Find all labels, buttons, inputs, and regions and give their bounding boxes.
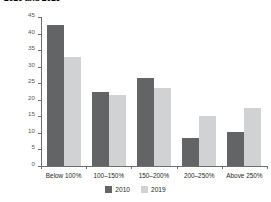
bar-2010-5 <box>227 132 244 166</box>
y-axis-tick: 5 <box>0 149 41 150</box>
y-axis-tick-mark <box>38 116 41 117</box>
legend-item-2010[interactable]: 2010 <box>105 186 130 193</box>
y-axis-tick-label: 5 <box>32 144 35 150</box>
y-axis-tick: 10 <box>0 133 41 134</box>
legend-item-2019[interactable]: 2019 <box>141 186 166 193</box>
y-axis-tick-label: 0 <box>32 161 35 167</box>
x-axis-category-label: Above 250% <box>222 172 267 179</box>
x-axis-category-label: Below 100% <box>41 172 86 179</box>
bar-2010-2 <box>92 92 109 166</box>
x-axis-tick-mark <box>131 166 132 169</box>
y-axis-tick-mark <box>38 34 41 35</box>
y-axis-tick-label: 25 <box>28 78 35 84</box>
bar-2010-1 <box>47 25 64 166</box>
y-axis-tick: 25 <box>0 83 41 84</box>
x-axis-category-label: 200–250% <box>177 172 222 179</box>
x-axis-tick-mark <box>222 166 223 169</box>
legend-swatch-icon <box>141 186 148 193</box>
x-axis-tick-mark <box>41 166 42 169</box>
y-axis-tick: 0 <box>0 166 41 167</box>
bar-2010-4 <box>182 138 199 166</box>
x-axis-tick-mark <box>177 166 178 169</box>
y-axis-tick-label: 45 <box>28 12 35 18</box>
chart-title: 2010 and 2019 <box>4 0 254 3</box>
y-axis-tick-label: 20 <box>28 95 35 101</box>
y-axis-tick: 20 <box>0 100 41 101</box>
y-axis-tick: 35 <box>0 50 41 51</box>
bar-2019-3 <box>154 88 171 166</box>
y-axis-tick-label: 10 <box>28 128 35 134</box>
y-axis-tick-mark <box>38 133 41 134</box>
bar-chart-figure: 2010 and 2019 051015202530354045 Percent… <box>0 0 271 202</box>
y-axis-tick-label: 30 <box>28 62 35 68</box>
bar-2019-5 <box>244 108 261 166</box>
x-axis-category-label: 100–150% <box>86 172 131 179</box>
legend-label: 2010 <box>115 186 130 193</box>
y-axis-tick-mark <box>38 100 41 101</box>
bar-2019-2 <box>109 95 126 166</box>
y-axis-tick: 15 <box>0 116 41 117</box>
y-axis-tick-mark <box>38 149 41 150</box>
x-axis-category-label: 150–200% <box>131 172 176 179</box>
bar-2019-4 <box>199 116 216 166</box>
y-axis-tick-label: 35 <box>28 45 35 51</box>
x-axis-tick-mark <box>267 166 268 169</box>
y-axis-tick-label: 40 <box>28 29 35 35</box>
x-axis-line <box>41 166 267 167</box>
legend-swatch-icon <box>105 186 112 193</box>
bar-2019-1 <box>64 57 81 166</box>
y-axis-tick: 30 <box>0 67 41 68</box>
y-axis-tick-label: 15 <box>28 111 35 117</box>
bar-2010-3 <box>137 78 154 166</box>
chart-legend: 20102019 <box>0 186 271 193</box>
y-axis-tick-mark <box>38 83 41 84</box>
y-axis-tick: 45 <box>0 17 41 18</box>
y-axis-tick-mark <box>38 17 41 18</box>
legend-label: 2019 <box>151 186 166 193</box>
y-axis-tick-mark <box>38 67 41 68</box>
y-axis-tick: 40 <box>0 34 41 35</box>
y-axis-tick-mark <box>38 50 41 51</box>
x-axis-tick-mark <box>86 166 87 169</box>
